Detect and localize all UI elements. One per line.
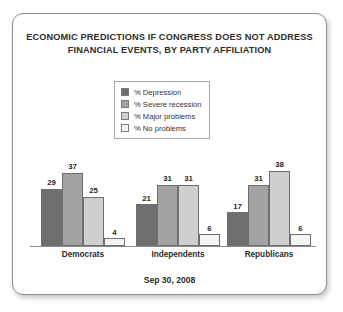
- bar-value-label: 31: [163, 174, 172, 183]
- legend-item[interactable]: % No problems: [121, 122, 202, 134]
- bar-group: 2131316: [135, 144, 221, 246]
- chart-title-line-1: ECONOMIC PREDICTIONS IF CONGRESS DOES NO…: [13, 31, 326, 44]
- chart-footer-date: Sep 30, 2008: [13, 275, 326, 285]
- bar[interactable]: [269, 171, 290, 246]
- bar-item[interactable]: 37: [62, 144, 83, 246]
- bar[interactable]: [136, 204, 157, 246]
- legend-item[interactable]: % Depression: [121, 86, 202, 98]
- bar-item[interactable]: 38: [269, 144, 290, 246]
- x-axis-category-label: Republicans: [226, 250, 312, 259]
- chart-card: ECONOMIC PREDICTIONS IF CONGRESS DOES NO…: [12, 13, 327, 295]
- bar[interactable]: [83, 197, 104, 246]
- bar[interactable]: [227, 212, 248, 246]
- chart-title: ECONOMIC PREDICTIONS IF CONGRESS DOES NO…: [13, 31, 326, 57]
- bar-item[interactable]: 6: [290, 144, 311, 246]
- x-axis-category-label: Independents: [135, 250, 221, 259]
- bar-value-label: 6: [298, 224, 302, 233]
- legend-item[interactable]: % Severe recession: [121, 98, 202, 110]
- bar-item[interactable]: 4: [104, 144, 125, 246]
- chart-legend: % Depression% Severe recession% Major pr…: [114, 81, 210, 139]
- legend-swatch-icon: [121, 88, 129, 96]
- bar[interactable]: [248, 185, 269, 246]
- x-axis-category-labels: DemocratsIndependentsRepublicans: [30, 250, 316, 264]
- x-axis-line: [30, 246, 316, 247]
- legend-item[interactable]: % Major problems: [121, 110, 202, 122]
- bar-item[interactable]: 25: [83, 144, 104, 246]
- chart-title-line-2: FINANCIAL EVENTS, BY PARTY AFFILIATION: [13, 44, 326, 57]
- bar[interactable]: [62, 173, 83, 246]
- legend-item-label: % No problems: [134, 124, 186, 133]
- bar-group: 2937254: [40, 144, 126, 246]
- bar-value-label: 37: [68, 162, 77, 171]
- legend-swatch-icon: [121, 100, 129, 108]
- bar-item[interactable]: 31: [248, 144, 269, 246]
- bar[interactable]: [199, 234, 220, 246]
- bar-item[interactable]: 21: [136, 144, 157, 246]
- bar-group: 1731386: [226, 144, 312, 246]
- bar-item[interactable]: 17: [227, 144, 248, 246]
- bar-item[interactable]: 31: [157, 144, 178, 246]
- bar-value-label: 17: [233, 202, 242, 211]
- bar-value-label: 6: [207, 224, 211, 233]
- legend-swatch-icon: [121, 112, 129, 120]
- bar-value-label: 31: [184, 174, 193, 183]
- bar-item[interactable]: 6: [199, 144, 220, 246]
- legend-item-label: % Depression: [134, 88, 181, 97]
- chart-plot-area: 293725421313161731386: [30, 144, 316, 247]
- legend-item-label: % Severe recession: [134, 100, 202, 109]
- legend-swatch-icon: [121, 124, 129, 132]
- bar[interactable]: [157, 185, 178, 246]
- bar-value-label: 38: [275, 160, 284, 169]
- bar-item[interactable]: 29: [41, 144, 62, 246]
- bar[interactable]: [41, 189, 62, 246]
- bar-value-label: 4: [112, 228, 116, 237]
- legend-item-label: % Major problems: [134, 112, 195, 121]
- bar-value-label: 29: [47, 178, 56, 187]
- x-axis-category-label: Democrats: [40, 250, 126, 259]
- bar[interactable]: [104, 238, 125, 246]
- bar-value-label: 31: [254, 174, 263, 183]
- bar[interactable]: [178, 185, 199, 246]
- bar-value-label: 21: [142, 194, 151, 203]
- bar[interactable]: [290, 234, 311, 246]
- bar-value-label: 25: [89, 186, 98, 195]
- bar-item[interactable]: 31: [178, 144, 199, 246]
